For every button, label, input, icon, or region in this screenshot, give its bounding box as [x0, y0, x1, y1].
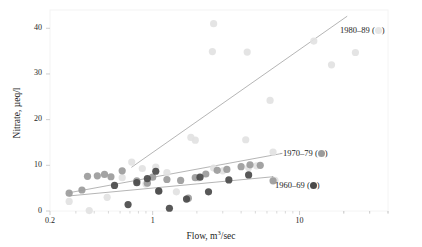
legend-label: 1980–89 ( — [340, 25, 375, 35]
legend-item-1960-69[interactable]: 1960–69 () — [275, 180, 320, 190]
data-point-1960-69 — [111, 182, 118, 189]
plot-frame — [50, 10, 388, 211]
y-tick-label: 0 — [20, 206, 42, 215]
data-point-1970-79 — [163, 176, 170, 183]
legend-swatch — [310, 182, 317, 189]
data-point-1970-79 — [223, 166, 230, 173]
legend-item-1980-89[interactable]: 1980–89 () — [340, 25, 385, 35]
data-point-1970-79 — [78, 186, 85, 193]
x-axis-label: Flow, m3/sec — [0, 229, 422, 241]
x-axis-ticks — [50, 211, 388, 215]
data-point-1980-89 — [104, 194, 111, 201]
y-axis-ticks — [46, 28, 50, 211]
data-point-1960-69 — [152, 168, 159, 175]
data-point-1980-89 — [244, 48, 251, 55]
legend-label: 1970–79 ( — [283, 148, 318, 158]
y-tick-label: 30 — [20, 68, 42, 77]
data-point-1970-79 — [84, 173, 91, 180]
scatter-plot-canvas — [0, 0, 422, 247]
data-point-1980-89 — [173, 188, 180, 195]
data-point-1980-89 — [163, 169, 170, 176]
data-point-1970-79 — [94, 172, 101, 179]
data-point-1960-69 — [155, 187, 162, 194]
data-point-1980-89 — [269, 148, 276, 155]
data-point-1960-69 — [245, 171, 252, 178]
y-axis-label: Nitrate, µeq/l — [12, 63, 22, 163]
data-point-1980-89 — [128, 159, 135, 166]
data-point-1980-89 — [187, 134, 194, 141]
data-point-1970-79 — [107, 173, 114, 180]
y-tick-label: 40 — [20, 23, 42, 32]
y-tick-label: 10 — [20, 160, 42, 169]
chart-figure: Nitrate, µeq/l Flow, m3/sec 0102030400.2… — [0, 0, 422, 247]
data-point-1980-89 — [242, 136, 249, 143]
legend-paren-close: ) — [382, 25, 385, 35]
y-tick-label: 20 — [20, 114, 42, 123]
data-point-1980-89 — [352, 49, 359, 56]
data-point-1960-69 — [124, 201, 131, 208]
legend-item-1970-79[interactable]: 1970–79 () — [283, 148, 328, 158]
data-point-1980-89 — [86, 207, 93, 214]
data-point-1960-69 — [183, 196, 190, 203]
data-point-1970-79 — [257, 162, 264, 169]
data-point-1970-79 — [66, 190, 73, 197]
data-point-1980-89 — [266, 97, 273, 104]
data-point-1960-69 — [205, 188, 212, 195]
x-tick-label: 0.2 — [35, 216, 65, 225]
data-point-1970-79 — [101, 171, 108, 178]
data-point-1980-89 — [328, 61, 335, 68]
data-point-1980-89 — [139, 165, 146, 172]
x-tick-label: 1 — [138, 216, 168, 225]
x-tick-label: 10 — [285, 216, 315, 225]
data-point-1960-69 — [166, 205, 173, 212]
legend-paren-close: ) — [317, 180, 320, 190]
legend-paren-close: ) — [325, 148, 328, 158]
data-point-1960-69 — [133, 179, 140, 186]
data-point-1980-89 — [210, 20, 217, 27]
x-axis-label-exponent: 3 — [218, 229, 221, 236]
data-point-1980-89 — [310, 37, 317, 44]
data-point-1960-69 — [196, 174, 203, 181]
legend-swatch — [318, 150, 325, 157]
legend-label: 1960–69 ( — [275, 180, 310, 190]
legend-swatch — [375, 27, 382, 34]
data-point-1960-69 — [144, 175, 151, 182]
data-point-1970-79 — [214, 167, 221, 174]
data-point-1960-69 — [225, 176, 232, 183]
data-point-1980-89 — [66, 198, 73, 205]
data-point-1970-79 — [246, 161, 253, 168]
data-point-1970-79 — [119, 167, 126, 174]
data-point-1980-89 — [119, 174, 126, 181]
data-point-1980-89 — [209, 48, 216, 55]
data-point-1970-79 — [238, 163, 245, 170]
data-point-1970-79 — [177, 177, 184, 184]
